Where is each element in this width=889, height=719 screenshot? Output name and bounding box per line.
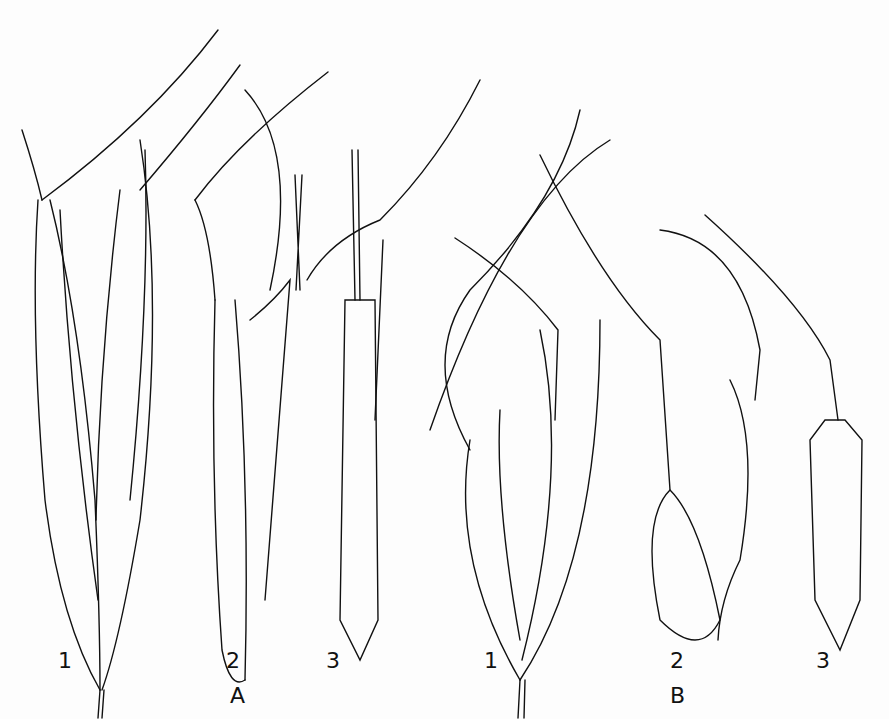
spikelet-b3 xyxy=(705,215,862,650)
label-a3: 3 xyxy=(326,650,340,672)
spikelet-a1 xyxy=(22,30,240,718)
label-b2: 2 xyxy=(670,650,684,672)
label-a1: 1 xyxy=(58,650,72,672)
spikelet-a2 xyxy=(195,72,328,682)
spikelet-b2 xyxy=(540,155,760,640)
label-a2: 2 xyxy=(226,650,240,672)
label-b1: 1 xyxy=(484,650,498,672)
group-label-a: A xyxy=(230,685,245,707)
botanical-illustration xyxy=(0,0,889,719)
spikelet-a3 xyxy=(307,80,480,660)
label-b3: 3 xyxy=(816,650,830,672)
spikelet-b1 xyxy=(430,110,610,718)
group-label-b: B xyxy=(670,685,685,707)
